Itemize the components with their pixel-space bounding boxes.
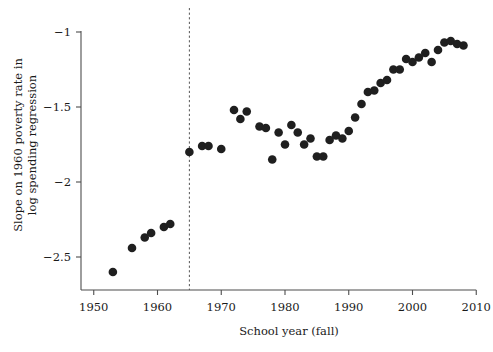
axis-labels-layer: −1−1.5−2−2.51950196019701980199020002010… (11, 25, 491, 338)
chart-figure: −1−1.5−2−2.51950196019701980199020002010… (0, 0, 493, 352)
data-point (344, 127, 353, 136)
data-point (236, 115, 245, 124)
data-point (166, 220, 175, 229)
data-point (287, 121, 296, 130)
data-point (274, 128, 283, 137)
data-point (459, 41, 468, 50)
data-point (268, 155, 277, 164)
data-point (109, 268, 118, 277)
data-point (370, 86, 379, 95)
y-axis-title-line1: Slope on 1960 poverty rate in (11, 58, 25, 232)
data-point (351, 113, 360, 122)
data-point (434, 46, 443, 55)
data-points-layer (109, 37, 468, 277)
data-point (395, 65, 404, 74)
y-axis-title-line2: log spending regression (25, 74, 39, 215)
data-point (319, 152, 328, 161)
y-tick-label: −2.5 (43, 250, 71, 264)
y-tick-label: −1 (54, 25, 71, 39)
data-point (262, 124, 271, 133)
data-point (427, 58, 436, 67)
y-tick-label: −1.5 (43, 100, 71, 114)
data-point (383, 76, 392, 85)
data-point (242, 107, 251, 116)
data-point (293, 128, 302, 137)
data-point (230, 106, 239, 115)
data-point (147, 229, 156, 238)
x-tick-label: 1950 (79, 300, 108, 314)
x-axis-title: School year (fall) (239, 324, 339, 338)
data-point (306, 134, 315, 143)
data-point (217, 145, 226, 154)
x-tick-label: 1990 (334, 300, 363, 314)
data-point (357, 100, 366, 109)
y-tick-label: −2 (54, 175, 71, 189)
data-point (185, 148, 194, 157)
axes-layer (76, 31, 476, 295)
data-point (300, 140, 309, 149)
x-tick-label: 1980 (270, 300, 299, 314)
x-tick-label: 2010 (462, 300, 491, 314)
data-point (204, 142, 213, 151)
data-point (128, 244, 137, 253)
x-tick-label: 2000 (398, 300, 427, 314)
data-point (338, 134, 347, 143)
data-point (281, 140, 290, 149)
data-point (421, 49, 430, 58)
x-tick-label: 1960 (143, 300, 172, 314)
x-tick-label: 1970 (207, 300, 236, 314)
scatter-plot: −1−1.5−2−2.51950196019701980199020002010… (0, 0, 493, 352)
